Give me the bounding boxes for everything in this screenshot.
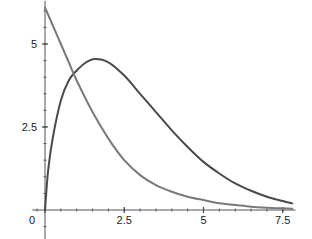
y-tick-label: 5	[31, 38, 37, 50]
x-tick-label: 5	[200, 214, 206, 226]
y-tick-label: 2.5	[22, 121, 37, 133]
chart-container: 02.557.52.55	[0, 0, 312, 239]
tick-labels: 02.557.52.55	[22, 38, 291, 226]
x-tick-label: 7.5	[275, 214, 290, 226]
series-group	[45, 7, 292, 210]
x-tick-label: 0	[29, 214, 35, 226]
series-decay-line	[45, 7, 292, 208]
series-peaked-line	[45, 59, 292, 210]
x-tick-label: 2.5	[117, 214, 132, 226]
line-chart: 02.557.52.55	[0, 0, 312, 239]
